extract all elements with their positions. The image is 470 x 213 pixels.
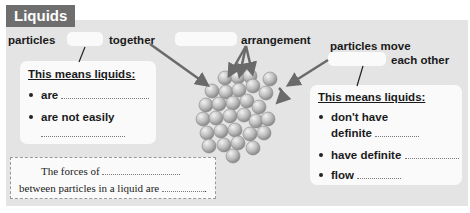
liquid-particles-diagram xyxy=(0,0,470,213)
